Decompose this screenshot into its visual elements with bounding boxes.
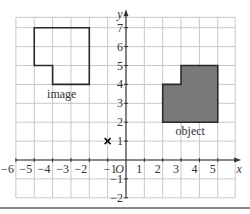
shape-object	[163, 66, 218, 123]
coordinate-grid-diagram: −6−5−4−3−2−1123457654321−1−2 image objec…	[0, 0, 250, 214]
y-tick-label: 3	[117, 96, 123, 110]
y-tick-label: 4	[117, 77, 123, 91]
object-label: object	[176, 124, 206, 138]
y-tick-label: −2	[110, 191, 123, 205]
x-tick-label: −3	[56, 162, 69, 176]
x-tick-label: 1	[136, 162, 142, 176]
bottom-divider	[0, 207, 250, 209]
y-tick-label: 1	[117, 134, 123, 148]
x-tick-label: −5	[19, 162, 32, 176]
x-tick-label: 4	[191, 162, 197, 176]
y-tick-label: 6	[117, 40, 123, 54]
x-axis-label: x	[236, 162, 243, 176]
y-tick-label: 2	[117, 115, 123, 129]
x-tick-label: 3	[173, 162, 179, 176]
shape-image	[34, 28, 89, 85]
image-label: image	[47, 87, 76, 101]
x-tick-label: 5	[210, 162, 216, 176]
y-tick-label: 5	[117, 59, 123, 73]
y-axis-arrow-icon	[124, 9, 129, 16]
x-tick-label: −4	[38, 162, 51, 176]
grid-plot: −6−5−4−3−2−1123457654321−1−2 image objec…	[0, 0, 250, 214]
y-axis-label: y	[116, 7, 123, 21]
x-tick-label: 2	[155, 162, 161, 176]
x-tick-label: −6	[1, 162, 14, 176]
y-tick-label: 7	[117, 21, 123, 35]
origin-label: O	[115, 162, 124, 176]
x-tick-label: −2	[75, 162, 88, 176]
